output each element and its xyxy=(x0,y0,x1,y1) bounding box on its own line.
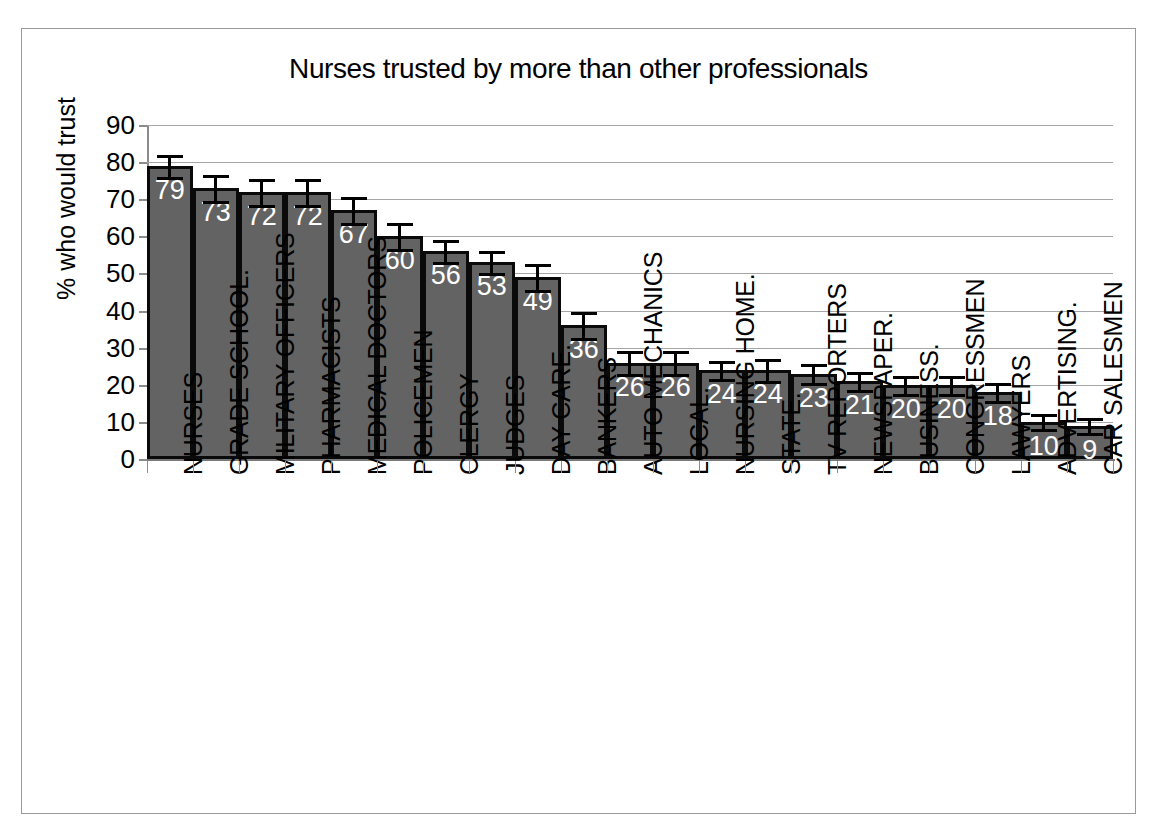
x-axis-tick xyxy=(791,461,792,473)
error-bar-stem xyxy=(168,155,171,177)
x-axis-label: MEDICAL DOCTORS xyxy=(363,236,392,475)
x-axis-tick xyxy=(1021,461,1022,473)
y-axis-tick-label: 30 xyxy=(106,335,135,361)
x-axis-label: GRADE SCHOOL. xyxy=(225,269,254,475)
error-bar-cap-bottom xyxy=(341,223,367,226)
error-bar-stem xyxy=(628,351,631,373)
error-bar-stem xyxy=(260,179,263,205)
x-axis-label: BANKERS xyxy=(593,357,622,475)
y-axis-tick xyxy=(139,348,147,350)
x-axis-tick xyxy=(1067,461,1068,473)
y-axis-tick-labels: 9080706050403020100 xyxy=(22,125,135,459)
x-axis-tick xyxy=(193,461,194,473)
x-axis-tick xyxy=(837,461,838,473)
y-axis-tick-label: 20 xyxy=(106,372,135,398)
y-axis-tick-label: 90 xyxy=(106,112,135,138)
y-axis-tick xyxy=(139,311,147,313)
x-axis-label: CLERGY xyxy=(455,373,484,475)
error-bar-cap-bottom xyxy=(203,201,229,204)
x-axis-tick xyxy=(1113,461,1114,473)
y-axis-tick xyxy=(139,273,147,275)
x-axis-tick xyxy=(607,461,608,473)
x-axis-tick xyxy=(883,461,884,473)
x-axis-tick xyxy=(469,461,470,473)
x-axis-tick xyxy=(929,461,930,473)
x-axis-label: POLICEMEN xyxy=(409,330,438,475)
x-axis-tick xyxy=(285,461,286,473)
x-axis-label: CONGRESSMEN xyxy=(961,279,990,475)
y-axis-tick-label: 0 xyxy=(121,446,135,472)
x-axis-label: NURSING HOME. xyxy=(731,273,760,475)
error-bar-cap-bottom xyxy=(479,273,505,276)
y-axis-tick-label: 10 xyxy=(106,409,135,435)
x-axis-tick xyxy=(423,461,424,473)
error-bar-cap-bottom xyxy=(525,290,551,293)
x-axis-label: PHARMACISTS xyxy=(317,297,346,475)
y-axis-tick-label: 40 xyxy=(106,298,135,324)
x-axis-tick xyxy=(147,461,148,473)
y-axis-tick-label: 50 xyxy=(106,260,135,286)
error-bar-cap-top xyxy=(249,179,275,182)
x-axis-label: CAR SALESMEN xyxy=(1099,282,1128,476)
error-bar-cap-bottom xyxy=(157,177,183,180)
chart-title: Nurses trusted by more than other profes… xyxy=(22,53,1135,85)
error-bar-stem xyxy=(398,223,401,249)
x-axis-tick xyxy=(515,461,516,473)
x-axis-tick xyxy=(975,461,976,473)
y-axis-tick-label: 70 xyxy=(106,186,135,212)
x-axis-tick xyxy=(239,461,240,473)
error-bar-stem xyxy=(674,351,677,373)
error-bar-stem xyxy=(214,175,217,201)
error-bar-cap-bottom xyxy=(249,205,275,208)
y-axis-tick-label: 60 xyxy=(106,223,135,249)
y-axis-tick xyxy=(139,422,147,424)
error-bar-cap-top xyxy=(341,197,367,200)
x-axis-label: AUTO MECHANICS xyxy=(639,252,668,475)
x-axis-label: BUSINESS. xyxy=(915,343,944,475)
chart-frame: Nurses trusted by more than other profes… xyxy=(21,28,1136,814)
y-axis-tick xyxy=(139,459,147,461)
y-axis-tick-label: 80 xyxy=(106,149,135,175)
x-axis-label: TV REPORTERS xyxy=(823,283,852,475)
x-axis-label: MILITARY OFFICERS xyxy=(271,233,300,475)
y-axis-tick xyxy=(139,125,147,127)
bar-value-label: 53 xyxy=(472,273,512,300)
y-axis-tick xyxy=(139,199,147,201)
error-bar-stem xyxy=(490,251,493,273)
x-axis-label: NEWSPAPER. xyxy=(869,312,898,475)
error-bar-stem xyxy=(536,264,539,290)
x-axis-tick xyxy=(331,461,332,473)
y-axis-tick xyxy=(139,162,147,164)
error-bar-stem xyxy=(766,359,769,381)
error-bar-cap-bottom xyxy=(433,262,459,265)
x-axis-label: NURSES xyxy=(179,372,208,475)
error-bar-cap-top xyxy=(295,179,321,182)
bar-value-label: 79 xyxy=(150,177,190,204)
error-bar-cap-top xyxy=(433,240,459,243)
error-bar-stem xyxy=(352,197,355,223)
error-bar-cap-bottom xyxy=(571,338,597,341)
y-axis-tick xyxy=(139,236,147,238)
error-bar-cap-top xyxy=(479,251,505,254)
error-bar-cap-top xyxy=(203,175,229,178)
x-axis-label: DAY CARE. xyxy=(547,344,576,475)
x-axis-label: LAWYERS xyxy=(1007,355,1036,475)
error-bar-stem xyxy=(306,179,309,205)
error-bar-cap-top xyxy=(525,264,551,267)
x-axis-tick xyxy=(745,461,746,473)
x-axis-tick xyxy=(561,461,562,473)
error-bar-stem xyxy=(444,240,447,262)
x-axis-tick xyxy=(653,461,654,473)
x-axis-tick xyxy=(699,461,700,473)
error-bar-cap-bottom xyxy=(295,205,321,208)
error-bar-cap-top xyxy=(571,312,597,315)
y-axis-tick xyxy=(139,385,147,387)
error-bar-cap-top xyxy=(387,223,413,226)
x-axis-label: JUDGES xyxy=(501,375,530,475)
x-axis-label: ADVERTISING. xyxy=(1053,301,1082,475)
error-bar-cap-top xyxy=(157,155,183,158)
bar-value-label: 56 xyxy=(426,262,466,289)
x-axis-tick xyxy=(377,461,378,473)
error-bar-stem xyxy=(582,312,585,338)
